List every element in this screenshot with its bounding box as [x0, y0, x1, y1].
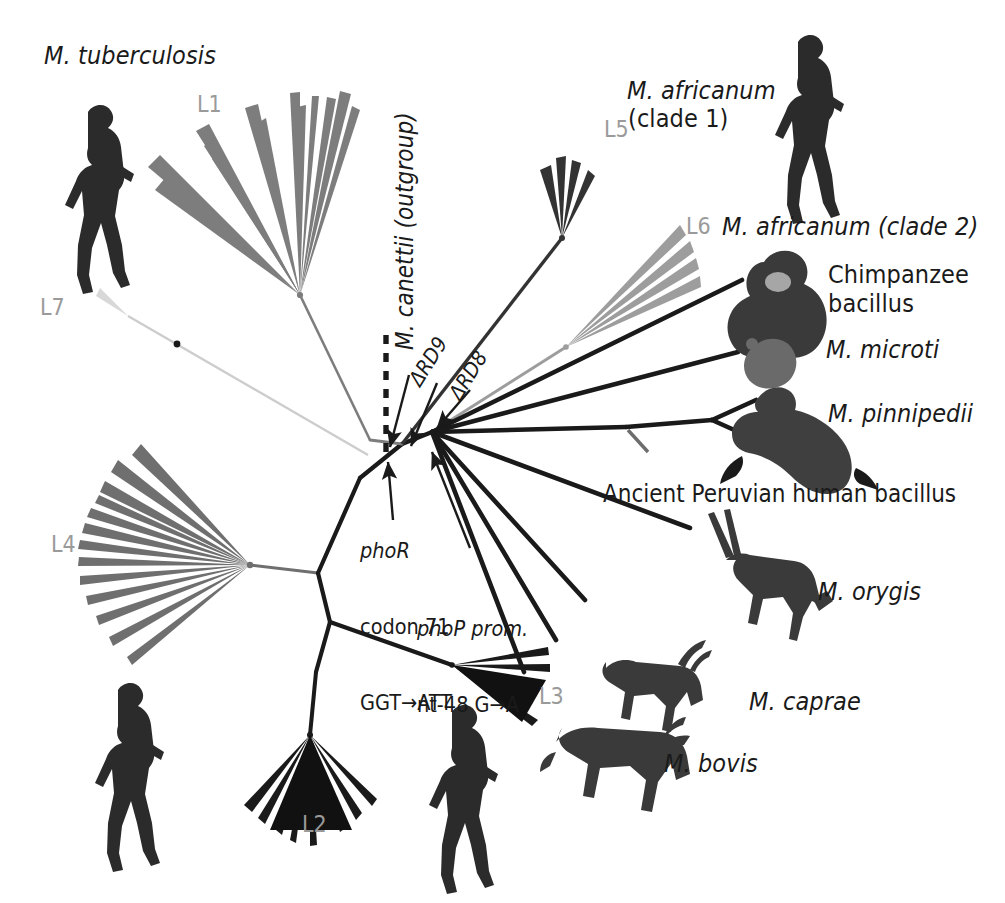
- walking-human-upper-left-icon: [65, 105, 134, 294]
- annotation-phoP-change: nt-48 G→A: [417, 692, 528, 717]
- label-m-africanum-clade1-line2: (clade 1): [628, 105, 728, 133]
- branch-ancient-peruvian: [628, 430, 648, 452]
- goat-icon: [602, 640, 712, 732]
- label-chimpanzee-bacillus-line1: Chimpanzee: [828, 261, 969, 289]
- label-m-orygis: M. orygis: [818, 578, 921, 606]
- lineage-tag-L4: L4: [51, 532, 76, 558]
- label-m-africanum-clade1-line1: M. africanum: [627, 77, 776, 105]
- figure-canvas: M. tuberculosis L1 L7 L4 L2 L3 L5 L6 M. …: [0, 0, 1005, 903]
- walking-human-lower-left-icon: [95, 683, 164, 872]
- label-m-tuberculosis: M. tuberculosis: [44, 42, 216, 70]
- annotation-phoR-gene: phoR: [360, 538, 452, 563]
- lineage-tag-L1: L1: [197, 92, 222, 118]
- lineage-tag-L6: L6: [686, 214, 711, 240]
- clade-L6: [432, 225, 701, 432]
- annotation-phoP-mutation: phoP prom. nt-48 G→A: [417, 565, 528, 768]
- oryx-icon: [708, 509, 833, 641]
- lineage-tag-L3: L3: [539, 684, 564, 710]
- label-m-canettii-outgroup: M. canettii (outgroup): [392, 112, 419, 350]
- lineage-tag-L7: L7: [40, 295, 65, 321]
- label-m-pinnipedii: M. pinnipedii: [828, 400, 973, 428]
- label-m-caprae: M. caprae: [749, 688, 861, 716]
- clade-L4: [78, 444, 318, 665]
- annotation-phoP-gene: phoP prom.: [417, 616, 528, 641]
- clade-L1: [148, 91, 370, 440]
- label-m-microti: M. microti: [826, 336, 939, 364]
- branch-pinnipedii-internal: [626, 420, 712, 427]
- label-chimpanzee-bacillus-line2: bacillus: [828, 290, 914, 318]
- label-m-bovis: M. bovis: [664, 750, 758, 778]
- lineage-tag-L2: L2: [302, 812, 327, 838]
- label-ancient-peruvian-human-bacillus: Ancient Peruvian human bacillus: [603, 481, 956, 508]
- walking-human-upper-right-icon: [775, 35, 844, 224]
- clade-L7: [96, 288, 368, 455]
- lineage-tag-L5: L5: [604, 117, 629, 143]
- branch-to-pinnipedii-node: [432, 427, 626, 432]
- label-m-africanum-clade2: M. africanum (clade 2): [722, 213, 978, 241]
